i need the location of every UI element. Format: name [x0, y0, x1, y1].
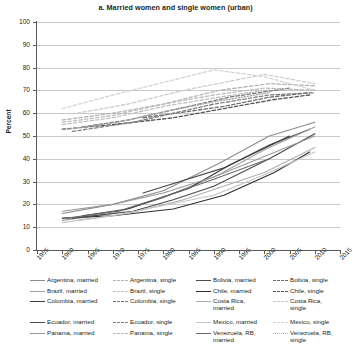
legend-line-swatch [196, 319, 211, 326]
legend-item-label: Brazil, married [47, 287, 87, 294]
legend-item[interactable]: Mexico, single [273, 318, 329, 326]
legend-item[interactable]: Venezuela, RB, married [196, 329, 256, 343]
legend-item-label: Bolivia, single [290, 276, 328, 283]
legend-item[interactable]: Chile, single [273, 287, 324, 295]
legend-item[interactable]: Costa Rica, single [273, 297, 322, 311]
legend-line-swatch [273, 298, 288, 305]
legend-item-label: Mexico, single [290, 318, 329, 325]
y-tick-label: 20 [4, 200, 30, 207]
chart-series-lines [37, 22, 340, 250]
y-tick-label: 80 [4, 64, 30, 71]
series-line [62, 122, 314, 213]
legend-item-label: Bolivia, married [213, 276, 256, 283]
legend-item-label: Panama, married [47, 329, 94, 336]
legend-item[interactable]: Colombia, married [30, 297, 98, 305]
legend-line-swatch [273, 330, 288, 337]
series-line [62, 88, 314, 122]
legend-line-swatch [273, 277, 288, 284]
series-line [62, 152, 309, 218]
legend-line-swatch [113, 319, 128, 326]
legend-line-swatch [30, 319, 45, 326]
legend-item[interactable]: Brazil, single [113, 287, 165, 295]
legend-item[interactable]: Ecuador, single [113, 318, 172, 326]
legend-item-label: Brazil, single [130, 287, 165, 294]
legend-line-swatch [196, 330, 211, 337]
legend-item[interactable]: Bolivia, single [273, 276, 328, 284]
legend-line-swatch [196, 298, 211, 305]
legend-item-label: Venezuela, RB, married [213, 329, 256, 343]
legend-item-label: Argentina, single [130, 276, 176, 283]
y-tick-label: 70 [4, 86, 30, 93]
y-tick-label: 90 [4, 41, 30, 48]
legend-line-swatch [30, 330, 45, 337]
legend-item[interactable]: Venezuela, RB, single [273, 329, 333, 343]
legend-line-swatch [196, 288, 211, 295]
legend-item-label: Colombia, single [130, 297, 176, 304]
legend-item[interactable]: Argentina, married [30, 276, 98, 284]
legend-item-label: Ecuador, married [47, 318, 94, 325]
legend-item[interactable]: Ecuador, married [30, 318, 94, 326]
legend-item[interactable]: Panama, married [30, 329, 94, 337]
legend-item-label: Mexico, married [213, 318, 257, 325]
legend-item-label: Argentina, married [47, 276, 98, 283]
legend-item[interactable]: Colombia, single [113, 297, 176, 305]
y-tick-label: 0 [4, 246, 30, 253]
legend-line-swatch [113, 277, 128, 284]
legend-item-label: Costa Rica, single [290, 297, 322, 311]
legend-line-swatch [113, 288, 128, 295]
series-line [77, 74, 314, 113]
legend-line-swatch [196, 277, 211, 284]
legend-item-label: Colombia, married [47, 297, 98, 304]
legend-item[interactable]: Chile, married [196, 287, 252, 295]
chart-title: a. Married women and single women (urban… [0, 3, 351, 12]
legend-item[interactable]: Mexico, married [196, 318, 257, 326]
x-axis-line [36, 250, 340, 251]
legend-line-swatch [113, 298, 128, 305]
y-tick-label: 60 [4, 109, 30, 116]
legend-item[interactable]: Brazil, married [30, 287, 87, 295]
legend-item[interactable]: Argentina, single [113, 276, 176, 284]
y-tick-label: 40 [4, 155, 30, 162]
legend-item-label: Venezuela, RB, single [290, 329, 333, 343]
legend-item[interactable]: Costa Rica, married [196, 297, 245, 311]
legend-line-swatch [30, 298, 45, 305]
y-tick-label: 30 [4, 178, 30, 185]
x-tick-label: 2015 [338, 246, 353, 261]
legend-item-label: Chile, single [290, 287, 324, 294]
y-tick-label: 10 [4, 223, 30, 230]
legend-line-swatch [30, 288, 45, 295]
y-tick-label: 100 [4, 18, 30, 25]
legend-item-label: Chile, married [213, 287, 252, 294]
legend-line-swatch [273, 319, 288, 326]
legend-line-swatch [113, 330, 128, 337]
legend-item-label: Costa Rica, married [213, 297, 245, 311]
series-line [67, 93, 269, 130]
chart-legend: Argentina, marriedArgentina, singleBoliv… [30, 276, 348, 352]
y-tick-label: 50 [4, 132, 30, 139]
legend-item-label: Ecuador, single [130, 318, 172, 325]
legend-item[interactable]: Bolivia, married [196, 276, 256, 284]
legend-line-swatch [273, 288, 288, 295]
legend-item[interactable]: Panama, single [113, 329, 173, 337]
legend-line-swatch [30, 277, 45, 284]
legend-item-label: Panama, single [130, 329, 173, 336]
